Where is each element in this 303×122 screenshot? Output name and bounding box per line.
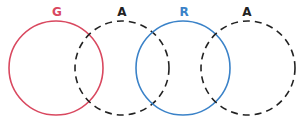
circle-a-right bbox=[201, 21, 295, 115]
label-r: R bbox=[179, 6, 188, 18]
circle-a-left bbox=[75, 21, 169, 115]
label-a-right: A bbox=[242, 6, 251, 18]
circle-r bbox=[136, 21, 230, 115]
venn-diagram: G A R A bbox=[0, 0, 303, 122]
venn-shapes bbox=[0, 0, 303, 122]
label-a-left: A bbox=[117, 6, 126, 18]
label-g: G bbox=[52, 6, 62, 18]
